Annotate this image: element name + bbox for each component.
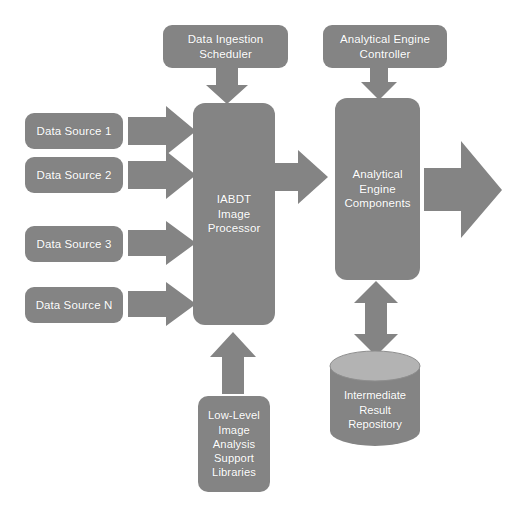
arrow-source3-to-processor xyxy=(128,221,196,265)
data-source-n-label: Data Source N xyxy=(32,298,117,313)
data-source-2-label: Data Source 2 xyxy=(33,168,116,183)
iabdt-image-processor-label: IABDTImageProcessor xyxy=(204,192,265,236)
node-iabdt-image-processor[interactable]: IABDTImageProcessor xyxy=(193,103,275,325)
node-low-level-libraries[interactable]: Low-LevelImageAnalysisSupportLibraries xyxy=(198,396,270,492)
arrow-processor-to-engine xyxy=(272,150,328,204)
arrow-libraries-to-processor xyxy=(210,332,256,394)
node-analytical-engine-components[interactable]: AnalyticalEngineComponents xyxy=(335,98,420,280)
data-source-3-label: Data Source 3 xyxy=(33,237,116,252)
arrow-engine-to-output xyxy=(424,141,502,238)
node-data-source-2[interactable]: Data Source 2 xyxy=(25,157,123,193)
arrow-controller-to-engine xyxy=(361,66,397,100)
arrow-scheduler-to-processor xyxy=(206,66,248,104)
analytical-engine-controller-label: Analytical EngineController xyxy=(336,32,434,61)
arrow-source1-to-processor xyxy=(128,106,196,155)
data-ingestion-scheduler-label: Data IngestionScheduler xyxy=(184,32,268,61)
node-data-source-n[interactable]: Data Source N xyxy=(25,287,123,323)
arrow-engine-repository-bidirectional xyxy=(354,281,398,356)
analytical-engine-components-label: AnalyticalEngineComponents xyxy=(340,167,414,211)
architecture-diagram: Data IngestionScheduler Analytical Engin… xyxy=(0,0,507,510)
intermediate-result-repository-label: Intermediate Result Repository xyxy=(329,388,421,432)
data-source-1-label: Data Source 1 xyxy=(33,124,116,139)
low-level-libraries-label: Low-LevelImageAnalysisSupportLibraries xyxy=(204,408,264,480)
node-data-source-3[interactable]: Data Source 3 xyxy=(25,226,123,262)
node-data-source-1[interactable]: Data Source 1 xyxy=(25,113,123,149)
arrow-sourceN-to-processor xyxy=(128,282,196,326)
node-analytical-engine-controller[interactable]: Analytical EngineController xyxy=(323,25,447,68)
arrow-source2-to-processor xyxy=(128,151,196,199)
node-data-ingestion-scheduler[interactable]: Data IngestionScheduler xyxy=(163,25,288,68)
